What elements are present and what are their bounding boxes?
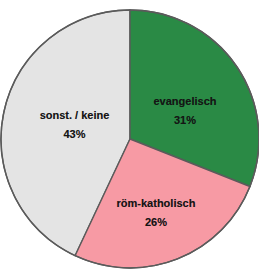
pie-label-sonstige-keine-value: 43% — [24, 129, 125, 140]
pie-chart: evangelisch 31% röm-katholisch 26% sonst… — [0, 0, 259, 277]
pie-label-evangelisch-name: evangelisch — [133, 96, 237, 107]
pie-label-roem-katholisch-value: 26% — [101, 217, 211, 228]
pie-label-roem-katholisch: röm-katholisch 26% — [101, 198, 211, 228]
pie-label-evangelisch: evangelisch 31% — [133, 96, 237, 126]
pie-label-sonstige-keine: sonst. / keine 43% — [24, 110, 125, 140]
pie-label-roem-katholisch-name: röm-katholisch — [101, 198, 211, 209]
pie-label-evangelisch-value: 31% — [133, 115, 237, 126]
pie-label-sonstige-keine-name: sonst. / keine — [24, 110, 125, 121]
